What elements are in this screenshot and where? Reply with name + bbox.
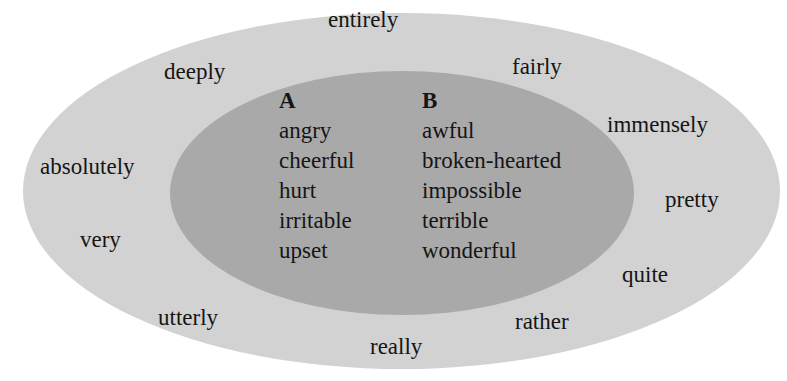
adverb-fairly: fairly [512,55,562,78]
column-b-word: terrible [422,206,561,236]
adverb-utterly: utterly [158,306,218,329]
column-b-word: wonderful [422,236,561,266]
column-b: B awful broken-hearted impossible terrib… [422,86,561,266]
adverb-absolutely: absolutely [40,155,135,178]
column-b-word: awful [422,116,561,146]
column-a-word: hurt [279,176,354,206]
column-b-word: impossible [422,176,561,206]
adverb-very: very [80,228,121,251]
column-b-heading: B [422,86,561,116]
column-a-heading: A [279,86,354,116]
adverb-immensely: immensely [607,113,708,136]
inner-ellipse [170,71,634,315]
adverb-really: really [370,335,422,358]
column-a-word: angry [279,116,354,146]
adverb-entirely: entirely [328,8,398,31]
column-a-word: cheerful [279,146,354,176]
adverb-deeply: deeply [164,60,225,83]
column-a-word: irritable [279,206,354,236]
adverb-quite: quite [622,263,668,286]
adverb-pretty: pretty [665,188,719,211]
column-b-word: broken-hearted [422,146,561,176]
column-a: A angry cheerful hurt irritable upset [279,86,354,266]
adverb-rather: rather [515,310,569,333]
column-a-word: upset [279,236,354,266]
